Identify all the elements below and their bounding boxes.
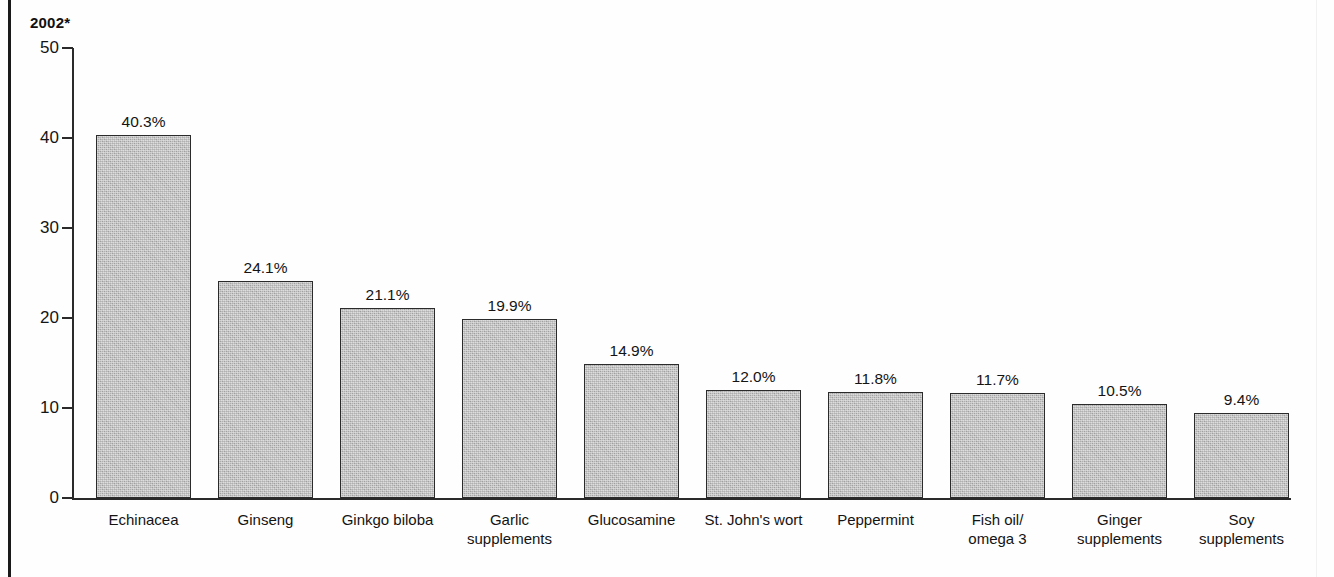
y-axis-tick	[62, 47, 73, 49]
bar[interactable]	[340, 308, 435, 498]
bar[interactable]	[706, 390, 801, 498]
bar-value-label: 24.1%	[193, 260, 338, 276]
bar[interactable]	[584, 364, 679, 498]
y-axis-tick	[62, 497, 73, 499]
bar[interactable]	[1194, 413, 1289, 498]
plot-area: 01020304050 40.3%24.1%21.1%19.9%14.9%12.…	[0, 0, 1334, 577]
bar[interactable]	[462, 319, 557, 498]
y-axis-tick-label: 0	[19, 489, 59, 506]
x-axis-category-label: Fish oil/ omega 3	[936, 511, 1059, 549]
y-axis-tick-label: 20	[19, 309, 59, 326]
x-axis-category-label: Garlic supplements	[448, 511, 571, 549]
bar[interactable]	[1072, 404, 1167, 499]
bar-value-label: 9.4%	[1169, 392, 1314, 408]
bar-value-label: 40.3%	[71, 114, 216, 130]
x-axis-line	[72, 498, 1291, 500]
chart-figure: 2002* 01020304050 40.3%24.1%21.1%19.9%14…	[0, 0, 1334, 577]
y-axis-tick-label: 10	[19, 399, 59, 416]
bar[interactable]	[828, 392, 923, 498]
y-axis-tick-label: 30	[19, 219, 59, 236]
x-axis-category-label: Ginkgo biloba	[326, 511, 449, 530]
x-axis-category-label: Soy supplements	[1180, 511, 1303, 549]
y-axis-tick	[62, 317, 73, 319]
x-axis-category-label: St. John's wort	[692, 511, 815, 530]
bar-value-label: 19.9%	[437, 298, 582, 314]
y-axis-tick	[62, 227, 73, 229]
y-axis-tick	[62, 407, 73, 409]
x-axis-category-label: Glucosamine	[570, 511, 693, 530]
y-axis-tick-label: 50	[19, 39, 59, 56]
bar[interactable]	[96, 135, 191, 498]
bar[interactable]	[950, 393, 1045, 498]
bar-value-label: 14.9%	[559, 343, 704, 359]
x-axis-category-label: Peppermint	[814, 511, 937, 530]
y-axis-tick	[62, 137, 73, 139]
x-axis-category-label: Echinacea	[82, 511, 205, 530]
bar[interactable]	[218, 281, 313, 498]
y-axis-tick-label: 40	[19, 129, 59, 146]
x-axis-category-label: Ginseng	[204, 511, 327, 530]
x-axis-category-label: Ginger supplements	[1058, 511, 1181, 549]
